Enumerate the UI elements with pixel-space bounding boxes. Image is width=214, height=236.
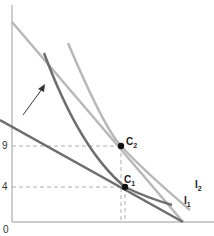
y-tick-label-9: 9 bbox=[2, 140, 8, 151]
point-label-c2: C2 bbox=[126, 136, 137, 149]
new-budget-line bbox=[12, 22, 183, 222]
original-budget-line bbox=[0, 120, 183, 222]
arrow-head-icon bbox=[38, 84, 45, 92]
origin-label: 0 bbox=[3, 224, 9, 235]
y-tick-label-4: 4 bbox=[2, 181, 8, 192]
curve-label-i2: I2 bbox=[195, 179, 202, 192]
chart: 0 9 4 C2 C1 I2 I1 bbox=[0, 0, 214, 236]
point-c2 bbox=[118, 143, 124, 149]
arrow-line bbox=[23, 89, 42, 115]
